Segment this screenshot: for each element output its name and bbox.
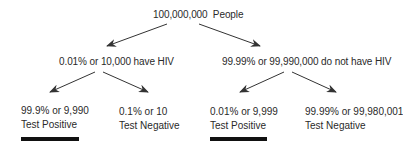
arrow-root-to-hiv: [107, 24, 167, 46]
leaf-no-hiv-test-positive: 0.01% or 9,999 Test Positive: [210, 105, 278, 133]
leaf-outcome: Test Negative: [305, 119, 403, 133]
hiv-test-probability-tree: 100,000,000 People 0.01% or 10,000 have …: [0, 0, 403, 153]
leaf-value: 99.9% or 9,990: [21, 104, 89, 118]
leaf-hiv-test-negative: 0.1% or 10 Test Negative: [119, 105, 180, 133]
leaf-value: 0.1% or 10: [119, 105, 180, 119]
node-no-hiv: 99.99% or 99,990,000 do not have HIV: [222, 55, 391, 68]
highlight-bar-false-positive: [210, 137, 267, 141]
leaf-outcome: Test Negative: [119, 119, 180, 133]
highlight-bar-true-positive: [21, 137, 79, 141]
arrow-no-hiv-to-positive: [240, 72, 284, 92]
leaf-outcome: Test Positive: [210, 119, 278, 133]
arrow-hiv-to-positive: [50, 72, 95, 92]
leaf-value: 99.99% or 99,980,001: [305, 105, 403, 119]
leaf-hiv-test-positive: 99.9% or 9,990 Test Positive: [21, 104, 89, 132]
arrow-hiv-to-negative: [103, 72, 148, 92]
leaf-value: 0.01% or 9,999: [210, 105, 278, 119]
node-have-hiv: 0.01% or 10,000 have HIV: [59, 55, 174, 68]
arrow-no-hiv-to-negative: [292, 72, 336, 92]
leaf-no-hiv-test-negative: 99.99% or 99,980,001 Test Negative: [305, 105, 403, 133]
arrow-root-to-no-hiv: [199, 24, 260, 46]
root-node-label: 100,000,000 People: [153, 8, 243, 21]
leaf-outcome: Test Positive: [21, 118, 89, 132]
